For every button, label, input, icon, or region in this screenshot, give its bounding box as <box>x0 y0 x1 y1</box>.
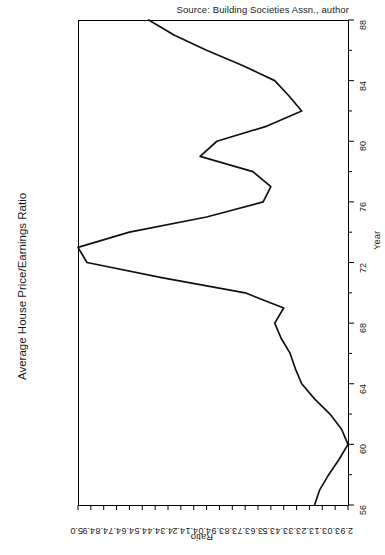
ratio-tick-label-3.7: 3.7 <box>237 526 250 536</box>
ratio-tick-label-3.2: 3.2 <box>301 526 314 536</box>
house-price-earnings-ratio-chart: Source: Building Societies Assn., author… <box>0 0 385 555</box>
ratio-tick-label-4.5: 4.5 <box>134 526 147 536</box>
year-tick-label-84: 84 <box>358 81 368 91</box>
ratio-tick-label-3.5: 3.5 <box>263 526 276 536</box>
ratio-tick-label-4.7: 4.7 <box>109 526 122 536</box>
year-tick-label-88: 88 <box>358 20 368 30</box>
data-series-line-0 <box>78 20 348 505</box>
year-axis-title: Year <box>371 231 382 250</box>
year-tick-label-76: 76 <box>358 202 368 212</box>
year-tick-label-56: 56 <box>358 505 368 515</box>
year-tick-label-80: 80 <box>358 141 368 151</box>
ratio-tick-label-3.1: 3.1 <box>314 526 327 536</box>
ratio-tick-label-3.3: 3.3 <box>289 526 302 536</box>
ratio-axis-title: Ratio <box>191 532 213 543</box>
ratio-tick-label-4.4: 4.4 <box>147 526 160 536</box>
ratio-tick-label-3.9: 3.9 <box>211 526 224 536</box>
ratio-tick-label-3.6: 3.6 <box>250 526 263 536</box>
ratio-tick-label-4.9: 4.9 <box>83 526 96 536</box>
ratio-tick-label-3.0: 3.0 <box>327 526 340 536</box>
ratio-tick-label-4.2: 4.2 <box>173 526 186 536</box>
ratio-tick-label-3.4: 3.4 <box>276 526 289 536</box>
year-tick-label-64: 64 <box>358 384 368 394</box>
ratio-tick-label-2.9: 2.9 <box>340 526 353 536</box>
data-series-layer <box>0 0 385 555</box>
ratio-tick-label-4.3: 4.3 <box>160 526 173 536</box>
year-tick-label-72: 72 <box>358 262 368 272</box>
ratio-tick-label-3.8: 3.8 <box>224 526 237 536</box>
year-tick-label-68: 68 <box>358 323 368 333</box>
chart-main-axis-title: Average House Price/Earnings Ratio <box>16 193 28 380</box>
ratio-tick-label-4.6: 4.6 <box>121 526 134 536</box>
year-tick-label-60: 60 <box>358 444 368 454</box>
ratio-tick-label-5.0: 5.0 <box>70 526 83 536</box>
ratio-tick-label-4.8: 4.8 <box>96 526 109 536</box>
